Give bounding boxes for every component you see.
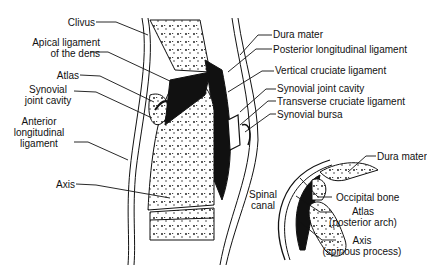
label-spinal-canal: Spinal canal [238,189,288,211]
label-synovial-line1: Synovial [16,84,80,95]
label-anterior-line2: longitudinal [0,127,78,138]
label-spinal-line2: canal [238,200,288,211]
label-axis2-line2: (spinous process) [312,246,412,257]
label-atlas2-line2: (posterior arch) [318,217,408,228]
label-synovial-joint-cavity-right: Synovial joint cavity [277,83,364,94]
label-axis2-line1: Axis [312,235,412,246]
label-atlas: Atlas [30,70,79,81]
label-apical-ligament: Apical ligament of the dens [10,37,100,59]
label-posterior-longitudinal-ligament: Posterior longitudinal ligament [273,44,407,55]
label-dura-mater-inset: Dura mater [377,151,427,162]
label-atlas2-line1: Atlas [318,206,408,217]
label-synovial-line2: joint cavity [16,95,80,106]
label-anterior-line3: ligament [0,138,78,149]
label-vertical-cruciate-ligament: Vertical cruciate ligament [275,65,386,76]
label-apical-line1: Apical ligament [10,37,100,48]
label-anterior-longitudinal-ligament: Anterior longitudinal ligament [0,116,78,149]
label-anterior-line1: Anterior [0,116,78,127]
label-axis-spinous-process: Axis (spinous process) [312,235,412,257]
main-sagittal-view [128,18,258,265]
label-transverse-cruciate-ligament: Transverse cruciate ligament [277,96,405,107]
label-atlas-posterior-arch: Atlas (posterior arch) [318,206,408,228]
label-occipital-bone: Occipital bone [336,192,399,203]
label-clivus: Clivus [40,17,95,28]
label-spinal-line1: Spinal [238,189,288,200]
label-dura-mater: Dura mater [273,29,323,40]
label-synovial-bursa: Synovial bursa [277,109,343,120]
label-synovial-joint-cavity-left: Synovial joint cavity [16,84,80,106]
label-apical-line2: of the dens [10,48,100,59]
label-axis: Axis [30,179,75,190]
